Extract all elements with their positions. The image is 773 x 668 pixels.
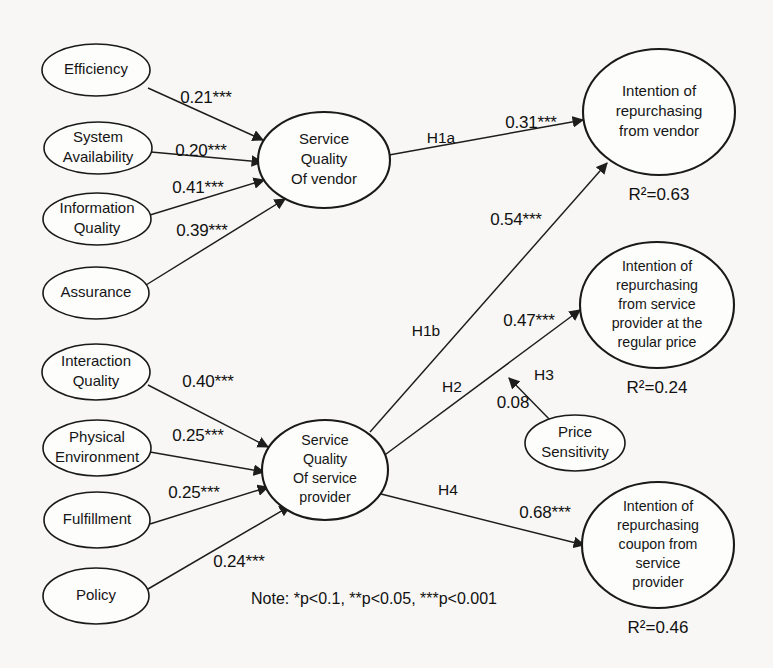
coefficient-label-policy-to-sqsp: 0.24*** — [213, 552, 265, 571]
node-label-intention-coupon: coupon from — [619, 536, 698, 552]
edge-infoqual-to-sqv: 0.41*** — [150, 178, 264, 215]
node-label-sq-service-provider: Service — [301, 432, 348, 448]
node-sq-vendor[interactable]: ServiceQualityOf vendor — [258, 112, 390, 208]
node-label-intention-vendor: from vendor — [619, 122, 699, 139]
coefficient-label-sqsp-to-intvendor: 0.54*** — [490, 210, 542, 229]
node-label-interaction-quality: Quality — [73, 372, 120, 389]
coefficient-label-assurance-to-sqv: 0.39*** — [176, 221, 228, 240]
node-label-intention-vendor: repurchasing — [616, 102, 703, 119]
path-diagram: 0.21***0.20***0.41***0.39***0.40***0.25*… — [0, 0, 773, 668]
node-sq-service-provider[interactable]: ServiceQualityOf serviceprovider — [262, 420, 388, 520]
coefficient-label-fulfillment-to-sqsp: 0.25*** — [168, 483, 220, 502]
node-label-system-availability: Availability — [63, 148, 134, 165]
node-label-intention-regular-price: regular price — [618, 334, 697, 350]
node-label-interaction-quality: Interaction — [61, 352, 131, 369]
coefficient-label-sqsp-to-intregular: 0.47*** — [503, 311, 555, 330]
coefficient-label-sysavail-to-sqv: 0.20*** — [175, 141, 227, 160]
node-label-price-sensitivity: Sensitivity — [541, 443, 609, 460]
node-intention-coupon[interactable]: Intention ofrepurchasingcoupon fromservi… — [582, 482, 734, 637]
node-label-intention-coupon: Intention of — [623, 498, 693, 514]
coefficient-label-interaction-to-sqsp: 0.40*** — [182, 372, 234, 391]
edge-sqv-to-intvendor: 0.31***H1a — [389, 113, 583, 155]
edge-price-to-intregular: 0.08H3 — [497, 366, 554, 423]
edge-physenv-to-sqsp: 0.25*** — [150, 426, 264, 472]
edge-arrow-assurance-to-sqv — [146, 199, 285, 285]
node-fulfillment[interactable]: Fulfillment — [44, 492, 150, 548]
edge-sqsp-to-intcoupon: 0.68***H4 — [381, 481, 584, 545]
node-label-information-quality: Quality — [74, 219, 121, 236]
node-label-price-sensitivity: Price — [558, 423, 592, 440]
node-interaction-quality[interactable]: InteractionQuality — [42, 344, 150, 400]
hypothesis-label-h2: H2 — [442, 378, 462, 395]
node-label-information-quality: Information — [59, 199, 134, 216]
node-label-system-availability: System — [73, 128, 123, 145]
node-label-assurance: Assurance — [61, 283, 132, 300]
node-label-intention-coupon: provider — [632, 574, 684, 590]
node-label-sq-service-provider: Quality — [303, 451, 348, 467]
coefficient-label-sqsp-to-intcoupon: 0.68*** — [519, 503, 571, 522]
node-label-policy: Policy — [76, 586, 117, 603]
node-label-sq-vendor: Quality — [301, 150, 348, 167]
edge-arrow-sqsp-to-intvendor — [370, 163, 607, 432]
hypothesis-label-h4: H4 — [438, 481, 458, 498]
figure-canvas: 0.21***0.20***0.41***0.39***0.40***0.25*… — [0, 0, 773, 668]
node-efficiency[interactable]: Efficiency — [42, 44, 150, 96]
node-layer: EfficiencySystemAvailabilityInformationQ… — [42, 44, 735, 637]
node-system-availability[interactable]: SystemAvailability — [44, 122, 152, 174]
r-squared-label-intention-vendor: R²=0.63 — [629, 185, 690, 204]
node-label-intention-regular-price: repurchasing — [616, 277, 698, 293]
coefficient-label-infoqual-to-sqv: 0.41*** — [172, 178, 224, 197]
node-information-quality[interactable]: InformationQuality — [43, 193, 151, 245]
node-intention-regular-price[interactable]: Intention ofrepurchasingfrom serviceprov… — [580, 242, 734, 397]
r-squared-label-intention-regular-price: R²=0.24 — [627, 378, 688, 397]
edge-sqsp-to-intvendor: 0.54***H1b — [370, 163, 607, 432]
edge-efficiency-to-sqv: 0.21*** — [148, 88, 263, 140]
node-label-intention-regular-price: from service — [618, 296, 695, 312]
edge-sysavail-to-sqv: 0.20*** — [151, 141, 262, 162]
node-physical-environment[interactable]: PhysicalEnvironment — [43, 420, 151, 476]
node-label-intention-coupon: service — [636, 555, 681, 571]
node-label-efficiency: Efficiency — [64, 60, 128, 77]
coefficient-label-price-to-intregular: 0.08 — [497, 393, 529, 412]
node-label-fulfillment: Fulfillment — [63, 510, 132, 527]
node-label-intention-regular-price: Intention of — [622, 258, 692, 274]
node-label-physical-environment: Physical — [69, 428, 125, 445]
edge-fulfillment-to-sqsp: 0.25*** — [150, 483, 268, 524]
node-label-intention-vendor: Intention of — [622, 82, 697, 99]
node-price-sensitivity[interactable]: PriceSensitivity — [525, 415, 625, 471]
edge-arrow-physenv-to-sqsp — [150, 452, 264, 472]
node-label-intention-regular-price: provider at the — [612, 315, 703, 331]
node-assurance[interactable]: Assurance — [43, 267, 149, 319]
node-label-intention-coupon: repurchasing — [617, 517, 699, 533]
coefficient-label-sqv-to-intvendor: 0.31*** — [505, 113, 557, 132]
node-intention-vendor[interactable]: Intention ofrepurchasingfrom vendorR²=0.… — [583, 49, 735, 204]
node-policy[interactable]: Policy — [43, 568, 149, 624]
edge-assurance-to-sqv: 0.39*** — [146, 199, 285, 285]
node-label-sq-service-provider: Of service — [293, 470, 357, 486]
node-label-physical-environment: Environment — [55, 448, 140, 465]
node-label-sq-service-provider: provider — [299, 489, 351, 505]
node-label-sq-vendor: Service — [299, 130, 349, 147]
coefficient-label-efficiency-to-sqv: 0.21*** — [180, 88, 232, 107]
r-squared-label-intention-coupon: R²=0.46 — [628, 618, 689, 637]
hypothesis-label-h1a: H1a — [427, 129, 456, 146]
significance-note: Note: *p<0.1, **p<0.05, ***p<0.001 — [251, 590, 497, 607]
coefficient-label-physenv-to-sqsp: 0.25*** — [172, 426, 224, 445]
hypothesis-label-h1b: H1b — [412, 322, 440, 339]
node-label-sq-vendor: Of vendor — [291, 170, 357, 187]
hypothesis-label-h3: H3 — [534, 366, 554, 383]
